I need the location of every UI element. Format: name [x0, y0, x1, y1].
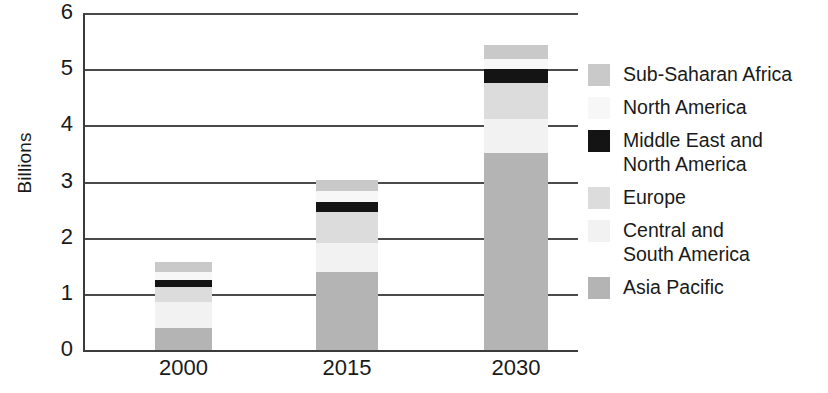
y-axis-tick-labels: 0123456 — [29, 13, 73, 352]
x-axis-line — [83, 350, 578, 352]
plot-area — [83, 13, 578, 352]
bar-2000 — [155, 262, 212, 350]
bar-segment-2015-asia-pacific — [316, 272, 378, 350]
bar-segment-2000-north-america — [155, 272, 212, 280]
legend-label: Middle East and North America — [623, 128, 763, 176]
y-tick-label-6: 6 — [33, 1, 73, 23]
legend-item-sub-saharan-africa[interactable]: Sub-Saharan Africa — [588, 62, 828, 86]
bar-segment-2015-europe — [316, 212, 378, 242]
bar-segment-2000-sub-saharan-africa — [155, 262, 212, 272]
bar-segment-2015-middle-east-and-north-america — [316, 202, 378, 212]
bar-segment-2030-sub-saharan-africa — [484, 45, 548, 58]
legend-swatch-icon — [588, 130, 610, 152]
bar-segment-2030-asia-pacific — [484, 153, 548, 350]
bar-segment-2030-north-america — [484, 59, 548, 69]
y-tick-label-2: 2 — [33, 226, 73, 248]
bar-segment-2000-europe — [155, 287, 212, 302]
legend-swatch-icon — [588, 187, 610, 209]
legend-swatch-icon — [588, 97, 610, 119]
bar-segment-2030-middle-east-and-north-america — [484, 69, 548, 83]
legend-swatch-icon — [588, 277, 610, 299]
legend-label: Central and South America — [623, 218, 750, 266]
bar-segment-2000-middle-east-and-north-america — [155, 280, 212, 287]
bar-segment-2015-north-america — [316, 191, 378, 202]
y-tick-label-1: 1 — [33, 282, 73, 304]
legend-label: North America — [623, 95, 747, 119]
x-tick-label-2015: 2015 — [294, 356, 400, 380]
stacked-bar-chart-figure: Billions 0123456 200020152030 Sub-Sahara… — [0, 0, 828, 393]
y-tick-label-0: 0 — [33, 338, 73, 360]
legend-label: Sub-Saharan Africa — [623, 62, 792, 86]
gridline-6 — [85, 13, 578, 15]
bar-segment-2030-europe — [484, 83, 548, 119]
bar-segment-2015-sub-saharan-africa — [316, 180, 378, 191]
bar-segment-2000-central-and-south-america — [155, 302, 212, 327]
y-tick-label-3: 3 — [33, 170, 73, 192]
bar-2030 — [484, 45, 548, 350]
legend-item-europe[interactable]: Europe — [588, 185, 828, 209]
legend-item-north-america[interactable]: North America — [588, 95, 828, 119]
bar-2015 — [316, 180, 378, 350]
bar-segment-2015-central-and-south-america — [316, 243, 378, 272]
legend-label: Asia Pacific — [623, 275, 724, 299]
y-tick-label-4: 4 — [33, 113, 73, 135]
y-tick-label-5: 5 — [33, 57, 73, 79]
chart-legend: Sub-Saharan AfricaNorth AmericaMiddle Ea… — [588, 62, 828, 308]
bar-segment-2030-central-and-south-america — [484, 119, 548, 154]
legend-item-middle-east-and-north-america[interactable]: Middle East and North America — [588, 128, 828, 176]
legend-label: Europe — [623, 185, 686, 209]
legend-swatch-icon — [588, 64, 610, 86]
legend-swatch-icon — [588, 220, 610, 242]
bar-segment-2000-asia-pacific — [155, 328, 212, 350]
x-tick-label-2000: 2000 — [133, 356, 234, 380]
x-tick-label-2030: 2030 — [462, 356, 570, 380]
legend-item-central-and-south-america[interactable]: Central and South America — [588, 218, 828, 266]
legend-item-asia-pacific[interactable]: Asia Pacific — [588, 275, 828, 299]
